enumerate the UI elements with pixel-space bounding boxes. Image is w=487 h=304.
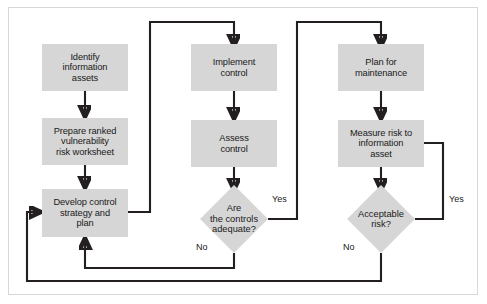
- edge-label-acceptable-risk-no: No: [343, 242, 355, 252]
- diamond-label: Are the controls adequate?: [196, 193, 272, 245]
- node-measure-risk-to-information-asset[interactable]: Measure risk to information asset: [338, 120, 424, 167]
- flowchart-page: Identify information assets Prepare rank…: [0, 0, 487, 304]
- edge-label-acceptable-risk-yes: Yes: [449, 194, 464, 204]
- node-assess-control[interactable]: Assess control: [191, 120, 277, 167]
- edge-label-controls-adequate-yes: Yes: [272, 194, 287, 204]
- node-are-the-controls-adequate[interactable]: Are the controls adequate?: [210, 195, 258, 243]
- node-develop-control-strategy-and-plan[interactable]: Develop control strategy and plan: [42, 189, 128, 237]
- node-plan-for-maintenance[interactable]: Plan for maintenance: [338, 44, 424, 91]
- edge-label-controls-adequate-no: No: [196, 242, 208, 252]
- diamond-label: Acceptable risk?: [343, 193, 419, 245]
- node-identify-information-assets[interactable]: Identify information assets: [42, 44, 128, 91]
- node-implement-control[interactable]: Implement control: [191, 44, 277, 91]
- node-prepare-ranked-vulnerability-risk-worksheet[interactable]: Prepare ranked vulnerability risk worksh…: [42, 118, 128, 165]
- node-acceptable-risk[interactable]: Acceptable risk?: [357, 195, 405, 243]
